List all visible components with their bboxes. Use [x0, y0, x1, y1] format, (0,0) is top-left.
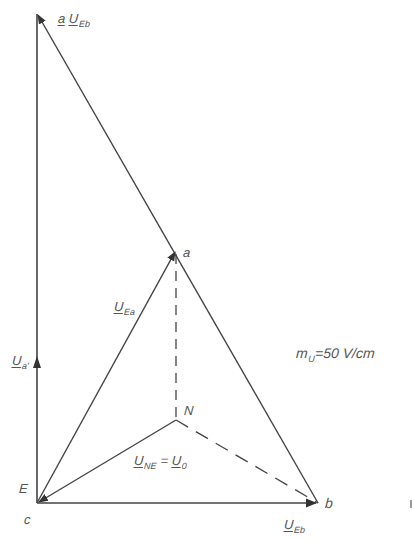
- dashed-line-N-b: [176, 420, 318, 503]
- point-label-a: a: [183, 246, 191, 259]
- label-a-UEb-sub: Eb: [79, 19, 91, 29]
- label-UEa-symbol: U: [113, 299, 123, 314]
- label-UEa-sub: Ea: [124, 307, 136, 317]
- point-label-b: b: [325, 496, 334, 510]
- label-UEb-symbol: U: [283, 517, 293, 532]
- point-c-text: c: [23, 512, 31, 527]
- label-UNE-U0: UNE = U0: [134, 454, 188, 467]
- point-label-N: N: [184, 404, 194, 417]
- label-a-UEb: a UEb: [58, 12, 91, 25]
- scale-sub: U: [308, 354, 315, 364]
- label-Ua-sub: a': [22, 361, 29, 371]
- label-Ua: Ua': [12, 354, 30, 367]
- label-UNE-sub: NE: [144, 461, 157, 471]
- label-UEa: UEa: [114, 300, 136, 313]
- label-U0-sub: 0: [181, 461, 187, 471]
- scale-label: mU=50 V/cm: [296, 346, 376, 360]
- label-UNE-symbol: U: [133, 453, 143, 468]
- phasor-a-UEb: [38, 15, 318, 503]
- label-a-UEb-prefix: a: [57, 11, 65, 26]
- point-b-text: b: [324, 495, 333, 511]
- point-N-text: N: [183, 403, 193, 418]
- scale-symbol: m: [295, 345, 308, 361]
- ua-arrow-head-icon: [33, 356, 41, 368]
- label-UEb-sub: Eb: [294, 525, 306, 535]
- point-label-E: E: [19, 482, 29, 495]
- point-a-text: a: [182, 245, 190, 260]
- label-UEb: UEb: [284, 518, 306, 531]
- point-label-c: c: [24, 513, 31, 526]
- phasor-diagram-canvas: [0, 0, 412, 541]
- label-Ua-symbol: U: [11, 353, 21, 368]
- label-a-UEb-symbol: U: [68, 11, 78, 26]
- scale-value: =50 V/cm: [315, 345, 376, 361]
- label-U0-symbol: U: [171, 453, 181, 468]
- label-equals: =: [160, 453, 169, 468]
- point-E-text: E: [18, 481, 28, 496]
